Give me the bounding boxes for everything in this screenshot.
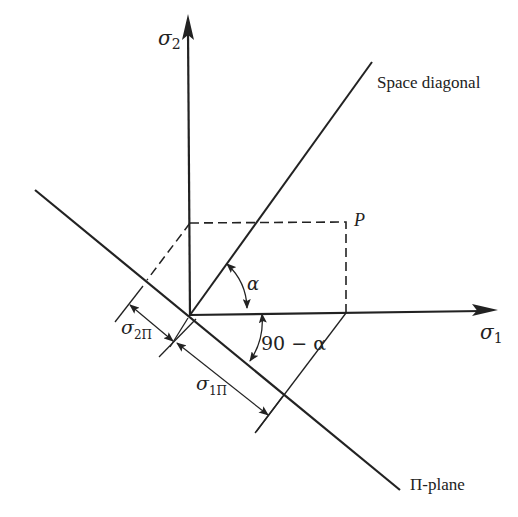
- sigma2-axis-label: σ2: [158, 26, 181, 52]
- pi-plane-label: Π-plane: [410, 475, 465, 494]
- dashed-projection-box: [190, 222, 346, 313]
- pi-plane-diagram: σ2 σ1 Space diagonal P α 90 − α σ2Π σ1Π …: [0, 0, 518, 517]
- point-p-label: P: [353, 210, 365, 230]
- sigma1pi-label: σ1Π: [196, 372, 227, 398]
- space-diagonal-line: [190, 62, 372, 315]
- space-diagonal-label: Space diagonal: [377, 73, 481, 92]
- alpha-label: α: [247, 273, 259, 294]
- sigma1pi-end-tick: [255, 396, 283, 433]
- origin-tick: [159, 319, 196, 357]
- complement-angle-label: 90 − α: [261, 332, 326, 354]
- sigma1-axis: [190, 311, 482, 315]
- dashed-sigma2-projector: [147, 223, 190, 280]
- sigma2-axis: [188, 30, 190, 316]
- alpha-angle-arc: [227, 264, 247, 308]
- sigma1-axis-label: σ1: [480, 320, 503, 346]
